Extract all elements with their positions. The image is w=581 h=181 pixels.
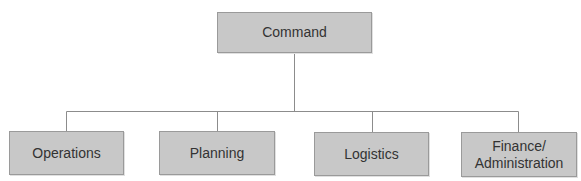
node-label: Command bbox=[262, 24, 327, 41]
node-finance-administration: Finance/ Administration bbox=[461, 132, 577, 177]
node-operations: Operations bbox=[9, 131, 124, 175]
node-label: Operations bbox=[32, 145, 100, 162]
node-label: Logistics bbox=[344, 146, 398, 163]
node-planning: Planning bbox=[159, 131, 275, 175]
node-logistics: Logistics bbox=[314, 132, 429, 176]
node-label: Finance/ Administration bbox=[475, 138, 564, 172]
node-label: Planning bbox=[190, 145, 245, 162]
node-command: Command bbox=[217, 12, 372, 53]
